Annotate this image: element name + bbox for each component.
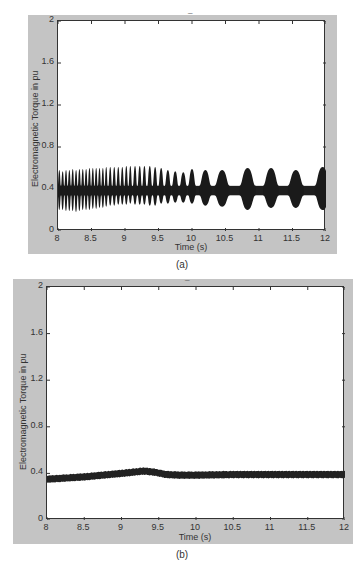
- x-tick-label: 9: [106, 523, 136, 532]
- panel-b-waveform: [47, 287, 345, 520]
- x-tick-label: 9.5: [143, 523, 173, 532]
- panel-b-plot-area: [46, 286, 344, 519]
- panel-b-caption: (b): [162, 549, 202, 560]
- y-tick-label: 2: [30, 15, 54, 24]
- x-tick-label: 8: [42, 234, 72, 243]
- x-tick-label: 10.5: [217, 523, 247, 532]
- panel-b-y-axis-label: Electromagnetic Torque in pu: [18, 354, 28, 470]
- panel-a-title-mark: _: [188, 5, 192, 14]
- x-tick-label: 8.5: [68, 523, 98, 532]
- panel-a-waveform: [58, 21, 326, 231]
- x-tick-label: 12: [329, 523, 359, 532]
- x-tick-label: 8: [31, 523, 61, 532]
- panel-a-y-axis-label: Electromagnetic Torque in pu: [30, 71, 40, 187]
- y-tick-label: 1.6: [30, 57, 54, 66]
- x-tick-label: 9: [109, 234, 139, 243]
- x-tick-label: 10: [180, 523, 210, 532]
- y-tick-label: 0: [30, 225, 54, 234]
- panel-a-caption: (a): [162, 259, 202, 270]
- y-tick-label: 1.6: [19, 328, 43, 337]
- panel-a-x-axis-label: Time (s): [161, 242, 221, 252]
- x-tick-label: 11.5: [292, 523, 322, 532]
- x-tick-label: 8.5: [76, 234, 106, 243]
- y-tick-label: 0: [19, 514, 43, 523]
- panel-b-x-axis-label: Time (s): [165, 532, 225, 542]
- x-tick-label: 11.5: [277, 234, 307, 243]
- x-tick-label: 11: [255, 523, 285, 532]
- x-tick-label: 11: [243, 234, 273, 243]
- x-tick-label: 12: [310, 234, 340, 243]
- y-tick-label: 2: [19, 281, 43, 290]
- panel-a-plot-area: [57, 20, 325, 230]
- panel-b-title-mark: _: [185, 272, 189, 281]
